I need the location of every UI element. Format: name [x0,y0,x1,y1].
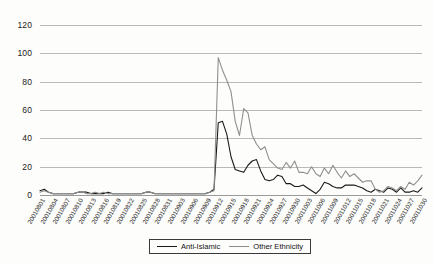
y-tick-label: 40 [22,133,32,143]
y-tick-label: 80 [22,77,32,87]
legend-line-swatch [229,246,249,247]
line-chart: 020406080100120 200108012001080420010807… [0,0,434,265]
y-tick-label: 120 [18,20,32,30]
y-tick-label: 60 [22,105,32,115]
legend-label: Anti-Islamic [181,242,220,251]
legend-item[interactable]: Anti-Islamic [157,242,220,251]
legend-label: Other Ethnicity [253,242,303,251]
plot-area [40,25,422,195]
series-container [40,25,422,195]
x-axis: 2001080120010804200108072001081020010813… [40,197,422,241]
y-tick-label: 100 [18,48,32,58]
series-line [40,58,422,194]
series-line [40,121,422,193]
legend-item[interactable]: Other Ethnicity [229,242,303,251]
y-tick-label: 0 [27,190,32,200]
chart-legend: Anti-IslamicOther Ethnicity [149,239,311,254]
y-axis: 020406080100120 [0,25,36,195]
gridline-0 [40,195,422,196]
legend-line-swatch [157,246,177,247]
y-tick-label: 20 [22,162,32,172]
